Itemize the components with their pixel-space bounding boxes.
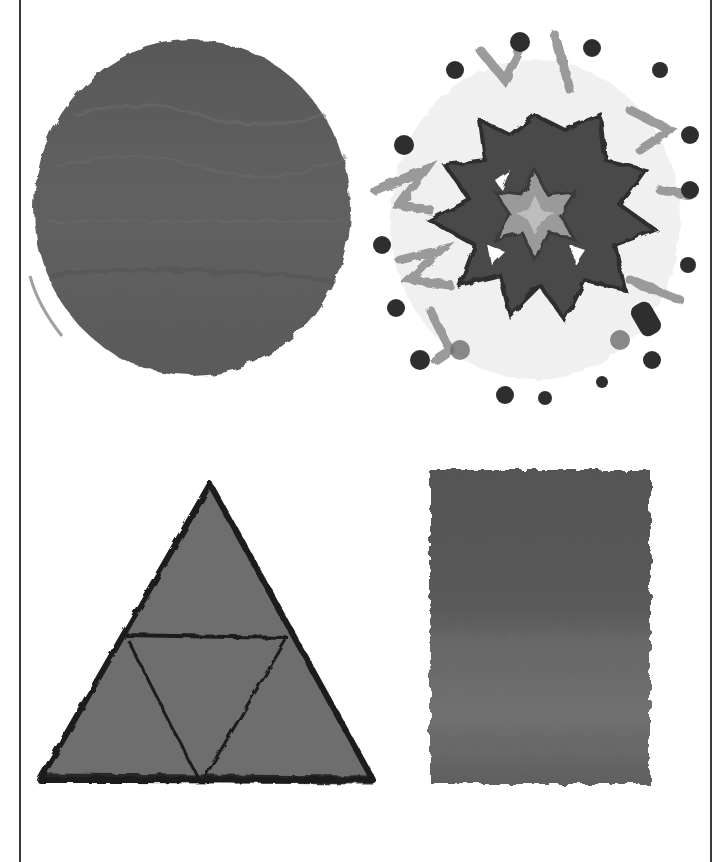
frame-right-line [710, 0, 712, 862]
painted-starburst [370, 20, 704, 420]
painted-rectangle [420, 462, 660, 792]
frame-left-line [19, 0, 21, 862]
painted-circle [26, 36, 356, 382]
painted-triangle [36, 480, 382, 792]
